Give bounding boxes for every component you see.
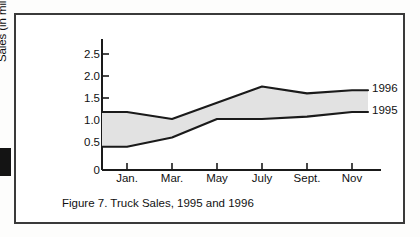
y-tick-label: 2.0 — [84, 70, 100, 82]
series-label-1995: 1995 — [372, 104, 398, 116]
y-tick-label: 0.5 — [84, 136, 100, 148]
figure-caption: Figure 7. Truck Sales, 1995 and 1996 — [62, 197, 254, 209]
y-axis-title: Sales (in millions) — [0, 0, 8, 62]
x-tick-label: July — [252, 172, 272, 184]
x-tick-label: Mar. — [161, 172, 183, 184]
y-tick-label: 0 — [94, 164, 100, 176]
page-edge-artifact — [0, 148, 11, 176]
figure-root: Sales (in millions) 2.5 2.0 1.5 1.0 0.5 … — [0, 0, 420, 237]
series-label-1996: 1996 — [372, 82, 398, 94]
y-tick-label: 1.5 — [84, 92, 100, 104]
x-tick-label: Sept. — [294, 172, 321, 184]
y-tick-label: 1.0 — [84, 114, 100, 126]
y-tick-label: 2.5 — [84, 48, 100, 60]
x-tick-label: May — [206, 172, 228, 184]
x-tick-label: Jan. — [116, 172, 138, 184]
x-tick-label: Nov — [342, 172, 362, 184]
